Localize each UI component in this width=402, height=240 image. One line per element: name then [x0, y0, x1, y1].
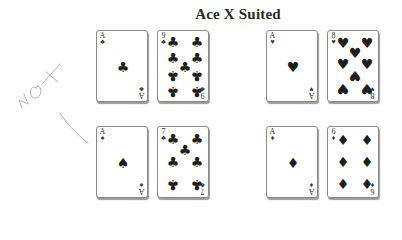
club-icon: ♣ — [191, 132, 204, 146]
card-eight-of-hearts: 8♥ ♥ ♥ ♥ ♥ ♥ ♥ ♥ ♥ 8♥ — [327, 30, 379, 102]
heart-icon: ♥ — [287, 60, 300, 74]
club-icon: ♣ — [179, 143, 192, 157]
heart-icon: ♥ — [361, 36, 374, 50]
club-icon: ♣ — [191, 35, 204, 49]
club-icon: ♣ — [191, 51, 204, 65]
card-ace-of-spades: A♠ ♠ A♠ — [96, 126, 148, 198]
heart-icon: ♥ — [349, 46, 362, 60]
spade-icon: ♠ — [99, 135, 106, 142]
diamond-icon: ♦ — [369, 181, 376, 188]
heart-icon: ♥ — [369, 85, 376, 92]
heart-icon: ♥ — [361, 57, 374, 71]
club-icon: ♣ — [99, 39, 106, 46]
club-icon: ♣ — [191, 155, 204, 169]
diamond-icon: ♦ — [361, 155, 374, 169]
card-seven-of-clubs: 7♣ ♣ ♣ ♣ ♣ ♣ ♣ ♣ 7♣ — [157, 126, 209, 198]
club-icon: ♣ — [167, 69, 180, 83]
club-icon: ♣ — [167, 132, 180, 146]
club-icon: ♣ — [167, 51, 180, 65]
club-icon: ♣ — [199, 85, 206, 92]
club-icon: ♣ — [117, 60, 130, 74]
club-icon: ♣ — [199, 181, 206, 188]
card-nine-of-clubs: 9♣ ♣ ♣ ♣ ♣ ♣ ♣ ♣ ♣ ♣ 9♣ — [157, 30, 209, 102]
club-icon: ♣ — [191, 69, 204, 83]
card-ace-of-diamonds: A♦ ♦ A♦ — [266, 126, 318, 198]
heart-icon: ♥ — [349, 69, 362, 83]
club-icon: ♣ — [167, 35, 180, 49]
diamond-icon: ♦ — [269, 135, 276, 142]
diamond-icon: ♦ — [287, 156, 300, 170]
club-icon: ♣ — [167, 85, 180, 99]
heart-icon: ♥ — [269, 39, 276, 46]
card-ace-of-hearts: A♥ ♥ A♥ — [266, 30, 318, 102]
heart-icon: ♥ — [337, 36, 350, 50]
card-ace-of-clubs: A♣ ♣ A♣ — [96, 30, 148, 102]
card-six-of-diamonds: 6♦ ♦ ♦ ♦ ♦ ♦ ♦ 6♦ — [327, 126, 379, 198]
heart-icon: ♥ — [337, 82, 350, 96]
club-icon: ♣ — [167, 178, 180, 192]
diamond-icon: ♦ — [337, 133, 350, 147]
club-icon: ♣ — [179, 60, 192, 74]
heart-icon: ♥ — [337, 57, 350, 71]
club-icon: ♣ — [167, 155, 180, 169]
diamond-icon: ♦ — [361, 133, 374, 147]
diamond-icon: ♦ — [337, 177, 350, 191]
diamond-icon: ♦ — [337, 155, 350, 169]
spade-icon: ♠ — [117, 156, 130, 170]
